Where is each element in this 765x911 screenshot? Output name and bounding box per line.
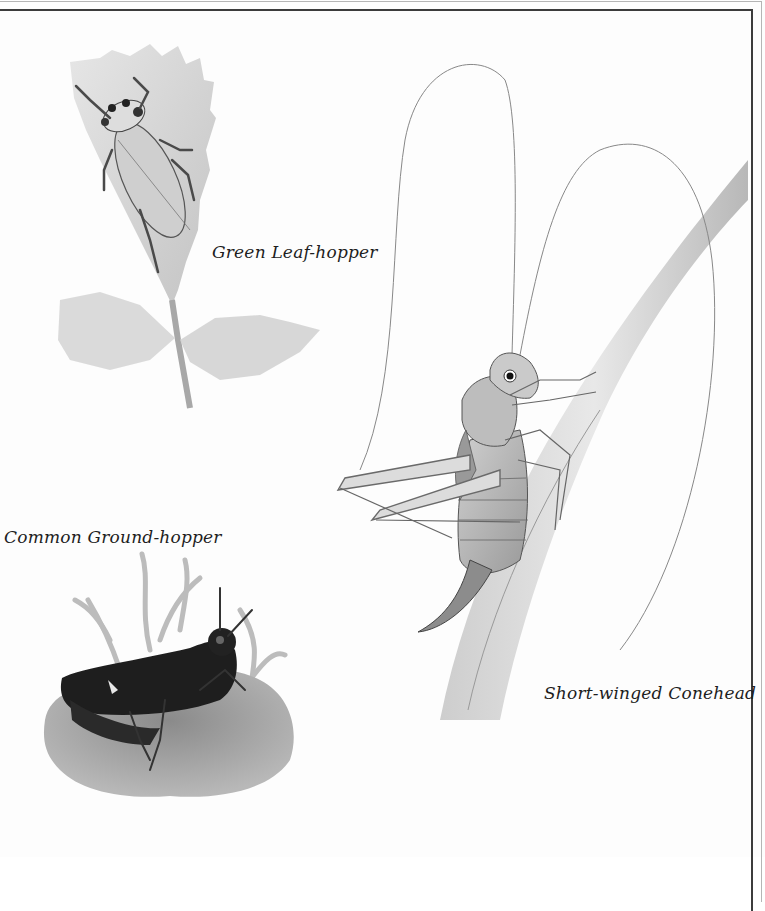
caption-green-leafhopper: Green Leaf-hopper bbox=[212, 242, 378, 262]
conehead-illustration bbox=[338, 64, 748, 720]
groundhopper-illustration bbox=[44, 554, 294, 797]
leafhopper-illustration bbox=[58, 44, 320, 408]
caption-common-groundhopper: Common Ground-hopper bbox=[4, 527, 222, 547]
caption-short-winged-conehead: Short-winged Conehead bbox=[544, 683, 756, 703]
